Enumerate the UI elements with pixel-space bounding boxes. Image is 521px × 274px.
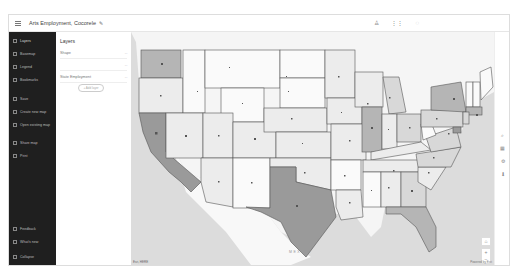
sidebar-item-open-existing-map[interactable]: Open existing map — [13, 121, 50, 129]
sidebar-item-collapse[interactable]: Collapse — [13, 253, 34, 261]
sidebar-item-basemap[interactable]: Basemap — [13, 50, 35, 58]
sidebar-item-save[interactable]: Save — [13, 95, 28, 103]
menu-icon[interactable] — [15, 21, 21, 26]
header: Arts Employment, Cocorele ✎ ♙ ⋮⋮ ◌ — [9, 15, 509, 32]
app-window: Arts Employment, Cocorele ✎ ♙ ⋮⋮ ◌ Layer… — [8, 14, 510, 266]
layer-item[interactable]: Shape ··· — [60, 48, 127, 59]
open-map-icon — [13, 123, 17, 127]
home-button[interactable]: ⌂ — [481, 237, 491, 246]
settings-icon[interactable]: ⚙ — [499, 158, 506, 164]
sidebar-item-layers[interactable]: Layers — [13, 37, 31, 45]
home-icon: ⌂ — [482, 238, 490, 245]
sidebar-item-feedback[interactable]: Feedback — [13, 225, 36, 233]
print-icon — [13, 154, 17, 158]
more-options-icon[interactable]: ··· — [125, 75, 128, 80]
layer-item[interactable]: State Employment ··· — [60, 72, 127, 83]
save-icon — [13, 97, 17, 101]
attribution[interactable]: Powered by Esri — [470, 260, 492, 264]
sidebar-item-bookmarks[interactable]: Bookmarks — [13, 76, 38, 84]
panel-title: Layers — [60, 38, 75, 44]
map-title: Arts Employment, Cocorele — [29, 20, 96, 26]
sidebar-item-share-map[interactable]: Share map — [13, 139, 38, 147]
sidebar: Layers Basemap Legend Bookmarks Save Cre… — [9, 32, 56, 265]
more-options-icon[interactable]: ··· — [125, 63, 128, 68]
new-map-icon — [13, 110, 17, 114]
share-icon — [13, 141, 17, 145]
map-view[interactable]: MEXICO ⌂ + − Esri, HERE Powered by Esri — [131, 32, 494, 265]
sidebar-item-create-new-map[interactable]: Create new map — [13, 108, 46, 116]
notification-icon[interactable]: ♙ — [374, 19, 379, 27]
user-icon[interactable]: ◌ — [415, 19, 419, 27]
feedback-icon — [13, 227, 17, 231]
basemap-icon — [13, 52, 17, 56]
layers-panel: Layers Shape ··· ··· State Employment ··… — [56, 32, 132, 265]
zoom-in-button[interactable]: + — [482, 249, 490, 256]
whats-new-icon — [13, 240, 17, 244]
more-options-icon[interactable]: ··· — [125, 51, 128, 56]
bookmark-icon — [13, 78, 17, 82]
grid-icon[interactable]: ▦ — [499, 145, 506, 151]
choropleth-map — [131, 32, 494, 265]
layer-item[interactable]: ··· — [60, 60, 127, 71]
sidebar-item-legend[interactable]: Legend — [13, 63, 32, 71]
sidebar-item-whats-new[interactable]: What's new — [13, 238, 38, 246]
tool-strip: ⌕ ▦ ⚙ ⬇ — [494, 32, 510, 265]
sidebar-item-print[interactable]: Print — [13, 152, 27, 160]
pin-icon[interactable]: ⬇ — [499, 171, 506, 177]
search-icon[interactable]: ⌕ — [499, 132, 506, 139]
legend-icon — [13, 65, 17, 69]
add-layer-button[interactable]: + Add layer — [78, 84, 104, 92]
layers-icon — [13, 39, 17, 43]
pencil-icon[interactable]: ✎ — [99, 20, 103, 26]
apps-icon[interactable]: ⋮⋮ — [391, 19, 403, 27]
collapse-icon — [13, 255, 17, 259]
country-label: MEXICO — [289, 250, 312, 254]
scale-bar: Esri, HERE — [133, 260, 148, 264]
